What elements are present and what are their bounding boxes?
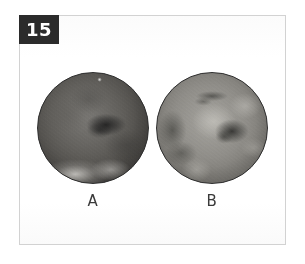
specimen-panel-b [156, 72, 268, 184]
specimen-panel-a [37, 72, 149, 184]
panel-label-b: B [156, 192, 268, 210]
figure-number-badge: 15 [20, 16, 58, 43]
figure-plate: 15 A B [0, 0, 305, 264]
specimen-disc-a-icon [37, 72, 149, 184]
grain-overlay [38, 73, 148, 183]
grain-overlay [157, 73, 267, 183]
panel-label-a: A [37, 192, 149, 210]
specimen-disc-b-icon [156, 72, 268, 184]
